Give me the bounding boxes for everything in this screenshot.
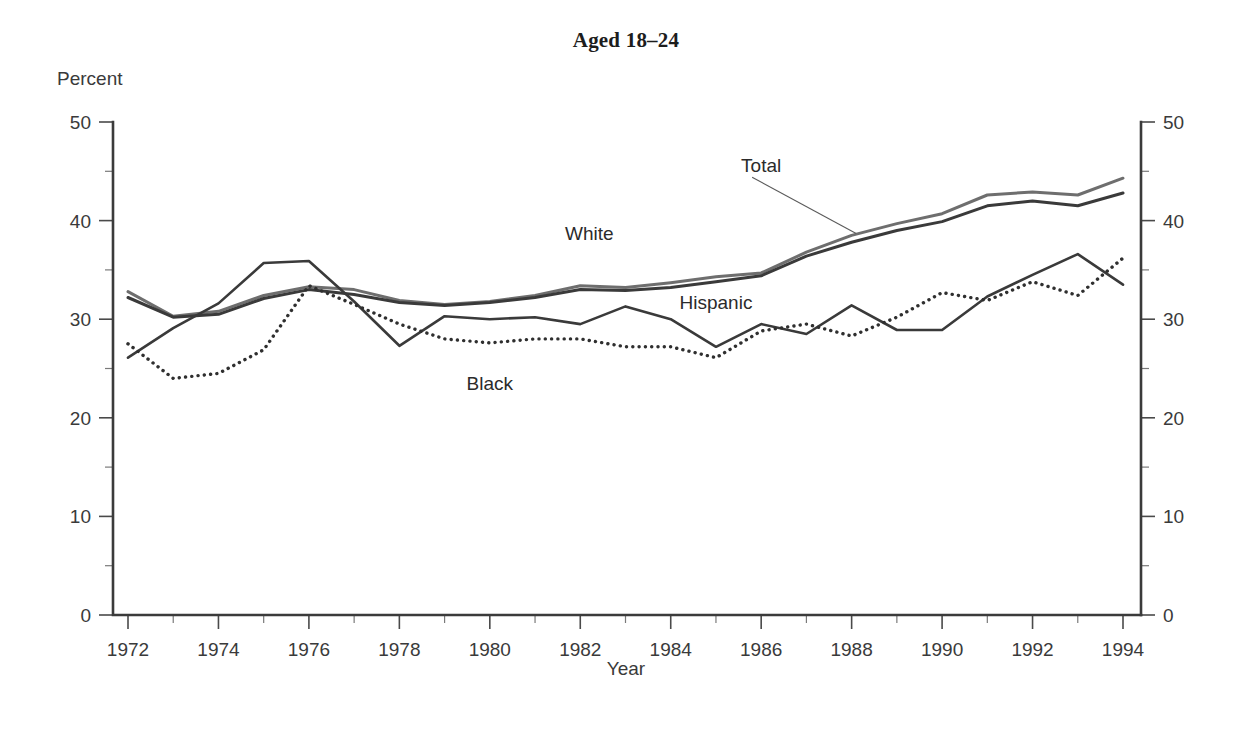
y-tick-label-left: 40	[70, 211, 91, 232]
annotation-group	[752, 177, 856, 233]
total-leader-line	[752, 177, 856, 233]
x-tick-label: 1986	[740, 639, 782, 660]
x-tick-label: 1988	[830, 639, 872, 660]
series-label-hispanic: Hispanic	[680, 292, 753, 313]
y-tick-label-right: 20	[1163, 408, 1184, 429]
data-series-group	[128, 178, 1123, 378]
series-line-black	[128, 258, 1123, 378]
y-tick-label-right: 40	[1163, 211, 1184, 232]
x-tick-label: 1984	[650, 639, 693, 660]
series-label-white: White	[565, 223, 614, 244]
x-axis-labels: 1972197419761978198019821984198619881990…	[107, 639, 1145, 660]
x-tick-label: 1972	[107, 639, 149, 660]
y-tick-label-left: 50	[70, 112, 91, 133]
x-tick-label: 1994	[1102, 639, 1145, 660]
y-tick-label-right: 30	[1163, 309, 1184, 330]
x-tick-label: 1980	[469, 639, 511, 660]
y-tick-label-left: 10	[70, 506, 91, 527]
y-axis-left-labels: 01020304050	[70, 112, 91, 626]
x-tick-label: 1976	[288, 639, 330, 660]
series-line-hispanic	[128, 254, 1123, 358]
major-tick-group	[99, 122, 1155, 629]
x-tick-label: 1974	[197, 639, 240, 660]
series-label-black: Black	[467, 373, 514, 394]
y-tick-label-right: 0	[1163, 605, 1174, 626]
chart-page: Aged 18–24 Percent Year 01020304050 0102…	[0, 0, 1252, 732]
x-tick-label: 1982	[559, 639, 601, 660]
y-axis-right-labels: 01020304050	[1163, 112, 1184, 626]
y-tick-label-left: 0	[80, 605, 91, 626]
x-tick-label: 1978	[378, 639, 420, 660]
y-tick-label-left: 30	[70, 309, 91, 330]
y-tick-label-right: 10	[1163, 506, 1184, 527]
series-line-total	[128, 193, 1123, 317]
x-tick-label: 1992	[1011, 639, 1053, 660]
x-tick-label: 1990	[921, 639, 963, 660]
y-tick-label-right: 50	[1163, 112, 1184, 133]
minor-tick-group	[105, 171, 1149, 623]
series-label-total: Total	[741, 155, 781, 176]
line-chart-plot: 01020304050 01020304050 1972197419761978…	[0, 0, 1252, 732]
y-tick-label-left: 20	[70, 408, 91, 429]
